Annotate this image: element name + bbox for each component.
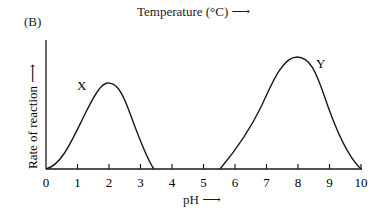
curve-label-y: Y [316,56,326,71]
x-tick-label: 6 [232,175,239,190]
x-tick-label: 9 [326,175,333,190]
curve-label-x: X [77,78,87,93]
x-tick-label: 10 [355,175,368,190]
x-tick-label: 3 [137,175,144,190]
curve-y [220,57,361,169]
x-tick-labels: 012345678910 [43,175,368,190]
curve-x [46,83,154,169]
y-axis-label: Rate of reaction ⟶ [25,64,40,169]
x-tick-label: 2 [106,175,113,190]
chart: 012345678910 X Y Rate of reaction ⟶ [0,0,384,219]
x-tick-label: 4 [169,175,176,190]
x-tick-label: 7 [263,175,270,190]
x-tick-label: 8 [295,175,302,190]
x-tick-label: 0 [43,175,50,190]
x-ticks [78,164,362,169]
x-tick-label: 1 [74,175,81,190]
x-tick-label: 5 [200,175,207,190]
x-axis-label: pH ⟶ [183,192,221,208]
